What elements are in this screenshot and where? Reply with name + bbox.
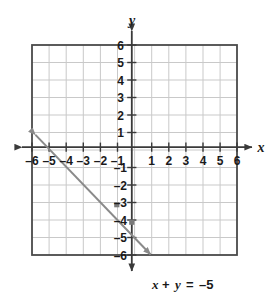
y-tick-label-neg3: –3 (114, 196, 128, 210)
y-tick-label-3: 3 (117, 91, 124, 105)
y-tick-label-neg1: –1 (114, 161, 128, 175)
y-tick-label-neg5: –5 (114, 231, 128, 245)
x-tick-label-2: 2 (165, 154, 172, 168)
y-axis-label: y (127, 13, 136, 28)
point-0-neg5 (129, 220, 134, 225)
x-tick-label-neg5: –5 (42, 154, 56, 168)
equation-annotation: x + y = –5 (151, 277, 213, 292)
y-tick-label-6: 6 (117, 39, 124, 53)
y-tick-label-5: 5 (117, 56, 124, 70)
x-tick-label-neg4: –4 (60, 154, 74, 168)
x-tick-label-neg6: –6 (25, 154, 39, 168)
y-tick-label-2: 2 (117, 109, 124, 123)
x-tick-label-1: 1 (148, 154, 155, 168)
equation-term-y: y (173, 277, 181, 292)
x-tick-label-3: 3 (183, 154, 190, 168)
equation-equals-sign: = (186, 277, 194, 292)
equation-right-side: –5 (199, 277, 213, 292)
x-tick-label-neg2: –2 (94, 154, 108, 168)
y-tick-label-neg4: –4 (114, 214, 128, 228)
y-tick-label-neg2: –2 (114, 179, 128, 193)
x-tick-label-6: 6 (234, 154, 241, 168)
y-tick-label-4: 4 (117, 74, 124, 88)
x-tick-label-5: 5 (217, 154, 224, 168)
y-tick-label-neg6: –6 (114, 249, 128, 263)
x-tick-label-4: 4 (200, 154, 207, 168)
equation-plus-sign: + (162, 277, 170, 292)
equation-term-x: x (151, 277, 159, 292)
coordinate-plane-figure: –6 –5 –4 –3 –2 –1 1 2 3 4 5 6 6 5 4 3 2 … (0, 0, 276, 304)
x-axis-label: x (257, 140, 265, 155)
graph-canvas: –6 –5 –4 –3 –2 –1 1 2 3 4 5 6 6 5 4 3 2 … (0, 0, 276, 304)
y-tick-label-1: 1 (117, 126, 124, 140)
x-tick-label-neg3: –3 (77, 154, 91, 168)
